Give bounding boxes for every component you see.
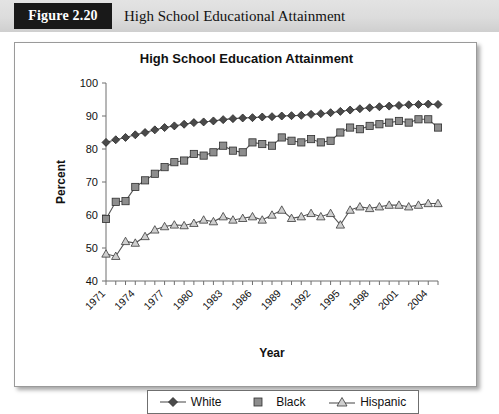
- data-point: [141, 129, 149, 137]
- data-point: [326, 209, 334, 216]
- data-point: [210, 149, 217, 156]
- data-point: [249, 139, 256, 146]
- y-tick-label: 80: [86, 143, 98, 155]
- x-tick-label: 2001: [375, 287, 400, 312]
- y-tick-label: 60: [86, 209, 98, 221]
- x-tick-label: 1983: [200, 287, 225, 312]
- data-point: [190, 150, 197, 157]
- data-point: [395, 117, 402, 124]
- legend-marker-diamond-icon: [160, 396, 186, 408]
- data-point: [161, 124, 169, 132]
- data-point: [386, 119, 393, 126]
- data-point: [151, 126, 159, 134]
- data-point: [239, 149, 246, 156]
- data-point: [425, 116, 432, 123]
- data-point: [327, 137, 334, 144]
- data-point: [112, 136, 120, 144]
- legend-label-black: Black: [276, 395, 305, 409]
- data-point: [278, 112, 286, 120]
- x-tick-label: 1974: [112, 287, 137, 312]
- data-point: [356, 105, 364, 113]
- data-point: [414, 100, 422, 108]
- data-point: [375, 103, 383, 111]
- data-point: [268, 211, 276, 218]
- data-point: [288, 137, 295, 144]
- data-point: [239, 114, 247, 122]
- data-point: [199, 216, 207, 223]
- data-point: [248, 114, 256, 122]
- data-point: [219, 212, 227, 219]
- y-tick-label: 90: [86, 110, 98, 122]
- data-point: [405, 101, 413, 109]
- data-point: [102, 215, 109, 222]
- data-point: [307, 209, 315, 216]
- data-point: [131, 131, 139, 139]
- x-tick-label: 1971: [82, 287, 107, 312]
- data-point: [395, 101, 403, 109]
- data-point: [337, 129, 344, 136]
- data-point: [122, 198, 129, 205]
- chart-svg: 4050607080901001971197419771980198319861…: [15, 43, 478, 388]
- data-point: [200, 118, 208, 126]
- data-point: [229, 147, 236, 154]
- x-tick-label: 1998: [346, 287, 371, 312]
- data-point: [336, 107, 344, 115]
- x-tick-label: 1992: [287, 287, 312, 312]
- data-point: [317, 110, 325, 118]
- legend-item-hispanic[interactable]: Hispanic: [329, 395, 406, 409]
- data-point: [229, 115, 237, 123]
- data-point: [141, 232, 149, 239]
- data-point: [219, 116, 227, 124]
- y-tick-label: 40: [86, 275, 98, 287]
- figure-caption: High School Educational Attainment: [124, 3, 345, 29]
- data-point: [346, 106, 354, 114]
- y-tick-label: 100: [80, 77, 98, 89]
- y-axis-label: Percent: [54, 160, 68, 204]
- data-point: [248, 212, 256, 219]
- legend-item-white[interactable]: White: [160, 395, 222, 409]
- figure-number-badge: Figure 2.20: [14, 3, 112, 29]
- data-point: [297, 111, 305, 119]
- legend-marker-square-icon: [245, 396, 271, 408]
- data-point: [220, 142, 227, 149]
- data-point: [327, 109, 335, 117]
- data-point: [366, 122, 373, 129]
- data-point: [307, 110, 315, 118]
- legend-label-white: White: [191, 395, 222, 409]
- data-point: [170, 221, 178, 228]
- data-point: [180, 120, 188, 128]
- data-point: [258, 113, 266, 121]
- data-point: [385, 102, 393, 110]
- data-point: [181, 157, 188, 164]
- figure-header-bar: Figure 2.20 High School Educational Atta…: [0, 0, 499, 32]
- data-point: [121, 237, 129, 244]
- data-point: [268, 142, 275, 149]
- data-point: [356, 126, 363, 133]
- y-tick-label: 70: [86, 176, 98, 188]
- x-tick-label: 1995: [317, 287, 342, 312]
- data-point: [259, 140, 266, 147]
- data-point: [171, 159, 178, 166]
- data-point: [200, 152, 207, 159]
- x-tick-label: 1980: [170, 287, 195, 312]
- legend-marker-triangle-icon: [329, 396, 355, 408]
- data-point: [317, 139, 324, 146]
- data-point: [132, 183, 139, 190]
- chart-legend: White Black Hispanic: [147, 390, 419, 414]
- data-point: [307, 136, 314, 143]
- x-tick-label: 1977: [141, 287, 166, 312]
- x-tick-label: 1989: [258, 287, 283, 312]
- legend-item-black[interactable]: Black: [245, 395, 305, 409]
- data-point: [376, 121, 383, 128]
- data-point: [424, 100, 432, 108]
- data-point: [122, 133, 130, 141]
- data-point: [161, 164, 168, 171]
- data-point: [415, 116, 422, 123]
- data-point: [434, 124, 441, 131]
- chart-panel: High School Education Attainment 4050607…: [14, 42, 477, 387]
- plot-area: 4050607080901001971197419771980198319861…: [15, 43, 478, 388]
- data-point: [366, 104, 374, 112]
- data-point: [209, 117, 217, 125]
- data-point: [434, 100, 442, 108]
- data-point: [141, 177, 148, 184]
